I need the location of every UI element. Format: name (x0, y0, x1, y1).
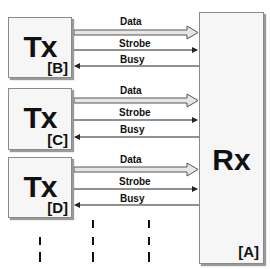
busy-label: Busy (120, 124, 144, 135)
rx-box-a: Rx [A] (199, 12, 264, 264)
tx-box-c: Tx [C] (8, 88, 72, 150)
strobe-label: Strobe (119, 38, 151, 49)
tx-box-d: Tx [D] (8, 157, 72, 218)
tx-tag: [C] (47, 131, 68, 148)
rx-tag: [A] (238, 243, 259, 260)
tx-title: Tx (9, 101, 71, 135)
busy-label: Busy (120, 193, 144, 204)
continuation-dashes (40, 220, 149, 262)
tx-box-b: Tx [B] (8, 17, 72, 78)
tx-tag: [B] (47, 59, 68, 76)
data-label: Data (120, 16, 142, 27)
data-label: Data (120, 154, 142, 165)
tx-tag: [D] (47, 199, 68, 216)
strobe-label: Strobe (119, 176, 151, 187)
busy-label: Busy (120, 54, 144, 65)
data-label: Data (120, 85, 142, 96)
strobe-label: Strobe (119, 107, 151, 118)
rx-title: Rx (200, 143, 263, 177)
